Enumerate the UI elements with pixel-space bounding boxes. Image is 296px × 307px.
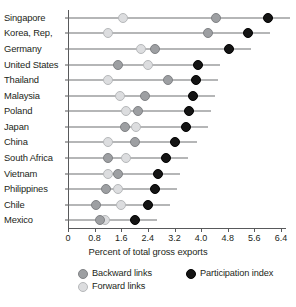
data-row <box>68 182 286 196</box>
x-tick-mark <box>201 228 202 232</box>
category-label: Singapore <box>0 13 65 23</box>
x-tick-mark <box>175 228 176 232</box>
plot-area <box>68 10 286 228</box>
data-point-forward-links <box>116 200 126 210</box>
x-tick-mark <box>228 228 229 232</box>
category-label: Germany <box>0 44 65 54</box>
x-axis-title: Percent of total gross exports <box>0 246 296 257</box>
category-label: Philippines <box>0 184 65 194</box>
data-point-participation-index <box>181 122 191 132</box>
x-tick-mark <box>254 228 255 232</box>
x-tick-label: 3.2 <box>168 233 181 244</box>
data-point-backward-links <box>133 106 143 116</box>
data-point-backward-links <box>91 200 101 210</box>
data-point-participation-index <box>263 13 273 23</box>
data-point-participation-index <box>153 169 163 179</box>
data-point-participation-index <box>150 184 160 194</box>
data-point-forward-links <box>103 28 113 38</box>
row-connector-line <box>68 173 180 174</box>
data-point-forward-links <box>121 106 131 116</box>
category-label: Poland <box>0 106 65 116</box>
x-tick-label: 4.0 <box>195 233 208 244</box>
row-connector-line <box>68 220 157 221</box>
data-row <box>68 11 286 25</box>
data-point-participation-index <box>224 44 234 54</box>
legend-swatch-backward-links-icon <box>78 269 88 279</box>
data-point-forward-links <box>103 137 113 147</box>
data-row <box>68 167 286 181</box>
data-row <box>68 135 286 149</box>
data-row <box>68 26 286 40</box>
x-tick-label: 0 <box>65 233 70 244</box>
data-row <box>68 42 286 56</box>
legend-label-forward-links: Forward links <box>92 281 145 292</box>
data-point-backward-links <box>113 169 123 179</box>
x-tick-label: 2.4 <box>142 233 155 244</box>
data-point-participation-index <box>184 106 194 116</box>
data-point-backward-links <box>140 91 150 101</box>
data-point-participation-index <box>143 200 153 210</box>
row-connector-line <box>68 33 270 34</box>
category-label: South Africa <box>0 153 65 163</box>
category-label: Thailand <box>0 75 65 85</box>
data-point-forward-links <box>115 91 125 101</box>
data-point-forward-links <box>136 44 146 54</box>
data-row <box>68 198 286 212</box>
x-tick-mark <box>95 228 96 232</box>
data-point-backward-links <box>130 137 140 147</box>
data-point-participation-index <box>130 215 140 225</box>
legend-item-participation-index[interactable]: Participation index <box>186 268 273 279</box>
data-point-backward-links <box>163 75 173 85</box>
x-tick-mark <box>281 228 282 232</box>
legend-item-forward-links[interactable]: Forward links <box>78 281 145 292</box>
category-label: Japan <box>0 122 65 132</box>
data-point-backward-links <box>150 44 160 54</box>
x-tick-label: 0.8 <box>88 233 101 244</box>
data-row <box>68 89 286 103</box>
data-point-backward-links <box>211 13 221 23</box>
category-label: China <box>0 137 65 147</box>
data-point-participation-index <box>193 60 203 70</box>
category-axis-labels: SingaporeKorea, Rep,GermanyUnited States… <box>0 0 68 228</box>
data-point-participation-index <box>191 75 201 85</box>
category-label: Malaysia <box>0 91 65 101</box>
category-label: United States <box>0 60 65 70</box>
data-point-forward-links <box>143 60 153 70</box>
data-point-backward-links <box>101 184 111 194</box>
chart-legend: Backward links Forward links Participati… <box>78 268 296 302</box>
legend-label-backward-links: Backward links <box>92 268 152 279</box>
data-point-backward-links <box>203 28 213 38</box>
data-row <box>68 104 286 118</box>
x-tick-label: 1.6 <box>115 233 128 244</box>
data-row <box>68 120 286 134</box>
data-point-backward-links <box>120 122 130 132</box>
x-tick-label: 6.4 <box>275 233 288 244</box>
dot-plot-chart: SingaporeKorea, Rep,GermanyUnited States… <box>0 0 296 307</box>
x-axis-line <box>68 228 286 229</box>
data-point-forward-links <box>121 153 131 163</box>
data-row <box>68 151 286 165</box>
data-point-participation-index <box>243 28 253 38</box>
category-label: Mexico <box>0 215 65 225</box>
data-point-forward-links <box>118 13 128 23</box>
legend-label-participation-index: Participation index <box>200 268 273 279</box>
category-label: Vietnam <box>0 169 65 179</box>
x-tick-label: 5.6 <box>248 233 261 244</box>
data-point-participation-index <box>170 137 180 147</box>
data-point-backward-links <box>103 153 113 163</box>
data-point-participation-index <box>161 153 171 163</box>
x-tick-mark <box>121 228 122 232</box>
x-tick-mark <box>68 228 69 232</box>
data-point-participation-index <box>188 91 198 101</box>
legend-swatch-forward-links-icon <box>78 282 88 292</box>
category-label: Korea, Rep, <box>0 28 65 38</box>
legend-item-backward-links[interactable]: Backward links <box>78 268 152 279</box>
legend-swatch-participation-index-icon <box>186 269 196 279</box>
data-point-forward-links <box>103 75 113 85</box>
category-label: Chile <box>0 200 65 210</box>
data-point-forward-links <box>131 122 141 132</box>
x-tick-mark <box>148 228 149 232</box>
data-point-forward-links <box>113 184 123 194</box>
data-row <box>68 73 286 87</box>
data-point-backward-links <box>113 60 123 70</box>
